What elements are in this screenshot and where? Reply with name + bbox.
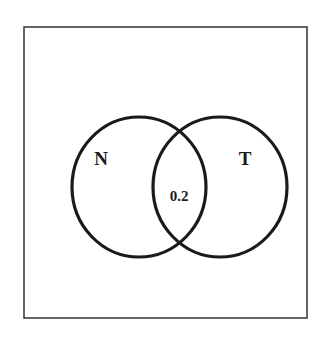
intersection-value: 0.2 (170, 188, 189, 204)
set-t-circle (153, 117, 287, 257)
set-n-label: N (94, 148, 108, 169)
set-n-circle (72, 117, 206, 257)
venn-diagram: N T 0.2 (0, 0, 333, 343)
sample-space-frame (24, 27, 307, 318)
set-t-label: T (239, 148, 252, 169)
